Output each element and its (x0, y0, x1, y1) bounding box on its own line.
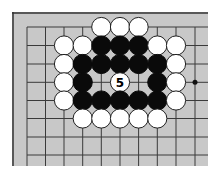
white-stone (73, 36, 92, 55)
black-stone (92, 54, 111, 73)
black-stone (110, 36, 129, 55)
white-stone (92, 109, 111, 128)
black-stone (92, 36, 111, 55)
white-stone (166, 54, 185, 73)
white-stone (110, 17, 129, 36)
black-stone (110, 54, 129, 73)
white-stone (54, 36, 73, 55)
black-stone (129, 91, 148, 110)
black-stone (148, 54, 167, 73)
black-stone (148, 91, 167, 110)
white-stone (110, 109, 129, 128)
white-stone (54, 73, 73, 92)
black-stone (73, 73, 92, 92)
white-stone (54, 91, 73, 110)
white-stone (148, 109, 167, 128)
black-stone (92, 91, 111, 110)
go-board: 5 (0, 0, 218, 178)
star-points (193, 80, 198, 85)
black-stone (110, 91, 129, 110)
move-number-label: 5 (116, 76, 124, 90)
white-stone (166, 91, 185, 110)
white-stone (148, 36, 167, 55)
black-stone (73, 54, 92, 73)
white-stone (92, 17, 111, 36)
white-stone-numbered: 5 (110, 73, 129, 92)
white-stone (129, 17, 148, 36)
black-stone (129, 54, 148, 73)
white-stone (73, 109, 92, 128)
white-stone (54, 54, 73, 73)
white-stone (129, 109, 148, 128)
black-stone (129, 36, 148, 55)
white-stone (166, 73, 185, 92)
star-point-icon (193, 80, 198, 85)
black-stone (73, 91, 92, 110)
black-stone (148, 73, 167, 92)
white-stone (166, 36, 185, 55)
